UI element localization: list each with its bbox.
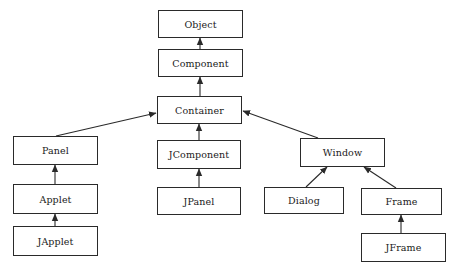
node-label: JFrame <box>386 242 422 253</box>
node-jframe: JFrame <box>361 233 446 262</box>
node-dialog: Dialog <box>264 187 344 214</box>
class-hierarchy-diagram: Object Component Container Panel Applet … <box>0 0 455 268</box>
edge-window-container <box>243 111 318 138</box>
edge-panel-container <box>56 113 156 136</box>
node-label: Window <box>323 147 362 158</box>
node-label: Frame <box>386 196 418 207</box>
node-label: Container <box>175 105 224 116</box>
edge-dialog-window <box>306 167 327 187</box>
edge-frame-window <box>364 167 396 188</box>
node-label: Object <box>184 19 216 30</box>
node-panel: Panel <box>13 136 98 165</box>
node-applet: Applet <box>13 184 98 214</box>
node-component: Component <box>158 49 243 77</box>
node-label: JComponent <box>169 149 229 160</box>
node-window: Window <box>300 138 385 167</box>
node-label: Applet <box>39 194 71 205</box>
node-object: Object <box>158 10 243 38</box>
node-label: JApplet <box>37 236 73 247</box>
node-label: Component <box>172 58 228 69</box>
node-jcomponent: JComponent <box>157 140 241 169</box>
node-label: Dialog <box>288 195 320 206</box>
node-frame: Frame <box>361 188 442 215</box>
node-jpanel: JPanel <box>157 187 241 215</box>
node-container: Container <box>157 96 242 124</box>
node-label: JPanel <box>184 196 215 207</box>
node-japplet: JApplet <box>13 226 98 256</box>
node-label: Panel <box>42 145 69 156</box>
